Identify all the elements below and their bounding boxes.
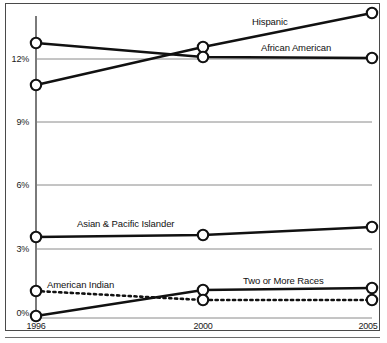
x-axis-tick-1996: 1996	[16, 321, 56, 331]
data-point-hispanic-2000	[198, 42, 208, 52]
data-point-two-or-more-2000	[198, 285, 208, 295]
data-point-american-indian-1996	[31, 286, 41, 296]
data-point-two-or-more-2005	[367, 283, 377, 293]
data-point-hispanic-1996	[31, 80, 41, 90]
data-point-african-american-2000	[198, 52, 208, 62]
series-label-hispanic: Hispanic	[252, 16, 288, 27]
data-point-american-indian-2000	[198, 295, 208, 305]
data-point-asian-pacific-2000	[198, 230, 208, 240]
x-axis-tick-2000: 2000	[183, 321, 223, 331]
data-point-asian-pacific-2005	[367, 222, 377, 232]
y-axis-tick-12: 12%	[3, 54, 29, 64]
data-point-hispanic-2005	[367, 8, 377, 18]
y-axis-tick-9: 9%	[3, 117, 29, 127]
data-point-two-or-more-1996	[31, 311, 41, 321]
y-axis-tick-0: 0%	[3, 308, 29, 318]
chart-container: 12% 9% 6% 3% 0% 1996 2000 2005 Hispanic …	[0, 0, 387, 343]
y-axis-tick-3: 3%	[3, 244, 29, 254]
y-axis-tick-6: 6%	[3, 180, 29, 190]
series-label-american-indian: American Indian	[47, 279, 114, 290]
data-point-african-american-2005	[367, 53, 377, 63]
x-axis-tick-2005: 2005	[348, 321, 387, 331]
series-label-two-or-more-races: Two or More Races	[243, 275, 324, 286]
data-point-african-american-1996	[31, 38, 41, 48]
series-label-asian-pacific-islander: Asian & Pacific Islander	[77, 218, 174, 229]
series-label-african-american: African American	[261, 42, 331, 53]
data-point-asian-pacific-1996	[31, 232, 41, 242]
data-point-american-indian-2005	[367, 295, 377, 305]
